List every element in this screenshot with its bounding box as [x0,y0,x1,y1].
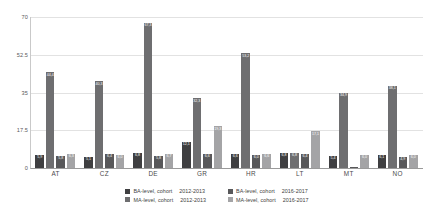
bar: 6,0 [252,155,261,168]
y-axis-tick-label: 35 [2,90,28,96]
x-axis: ATCZDEGRHRLTMTNO [31,170,422,177]
x-axis-tick-label: LT [275,170,324,177]
bar: 6,6 [231,154,240,168]
bar-group-hr: 6,653,26,06,6 [227,17,276,168]
bar: 6,6 [203,154,212,168]
legend-label: BA-level, cohort [133,188,172,194]
legend-entry[interactable]: MA-level, cohort2016-2017 [228,197,309,203]
x-axis-tick-label: DE [129,170,178,177]
bar-value-label: 6,8 [292,154,297,158]
y-axis-tick-label: 52.5 [2,52,28,58]
bar-group-de: 6,867,35,86,7 [129,17,178,168]
legend-swatch-icon [125,197,130,202]
bar-value-label: 34,9 [340,94,347,98]
bar-group-no: 6,138,14,96,0 [373,17,422,168]
bar-value-label: 6,3 [69,155,74,159]
bar-value-label: 6,0 [118,156,123,160]
bar: 6,0 [409,155,418,168]
legend-entry[interactable]: BA-level, cohort2012-2013 [125,188,206,194]
bar-value-label: 19,3 [214,128,221,132]
legend-column-1: BA-level, cohort2012-2013MA-level, cohor… [125,188,206,203]
bar: 53,2 [241,53,250,168]
bar-value-label: 6,7 [166,155,171,159]
legend-swatch-icon [125,189,130,194]
bar-value-label: 6,6 [233,155,238,159]
bar: 6,8 [280,153,289,168]
bar: 6,1 [378,155,387,168]
legend-cohort-year: 2016-2017 [283,197,309,203]
bar-value-label: 17,1 [312,133,319,137]
bar: 6,7 [165,154,174,168]
bar: 32,3 [193,98,202,168]
legend-swatch-icon [228,197,233,202]
bar-value-label: 38,1 [389,87,396,91]
bar-value-label: 6,0 [362,156,367,160]
bar-value-label: 5,9 [37,156,42,160]
legend-column-2: BA-level, cohort2016-2017MA-level, cohor… [228,188,309,203]
bar: 6,8 [290,153,299,168]
legend-label: MA-level, cohort [236,197,276,203]
bar-value-label: 6,0 [254,156,259,160]
legend-cohort-year: 2012-2013 [179,188,205,194]
bar-value-label: 32,3 [193,100,200,104]
bar-groups: 5,944,45,86,35,140,36,46,06,867,35,86,71… [31,17,422,168]
bar: 44,4 [46,72,55,168]
legend-cohort-year: 2012-2013 [180,197,206,203]
bar-value-label: 6,8 [135,154,140,158]
y-axis: 017.53552.570 [0,17,28,168]
bar: 6,0 [116,155,125,168]
y-axis-tick-label: 17.5 [2,127,28,133]
chart-legend: BA-level, cohort2012-2013MA-level, cohor… [0,188,434,203]
bar: 12,1 [182,142,191,168]
bar-group-lt: 6,86,86,417,1 [275,17,324,168]
bar-chart: 017.53552.570 5,944,45,86,35,140,36,46,0… [0,0,434,220]
bar-value-label: 5,8 [156,157,161,161]
bar-group-at: 5,944,45,86,3 [31,17,80,168]
legend-swatch-icon [228,189,233,194]
bar: 17,1 [311,131,320,168]
legend-entry[interactable]: BA-level, cohort2016-2017 [228,188,309,194]
x-axis-tick-label: AT [31,170,80,177]
x-axis-tick-label: NO [373,170,422,177]
bar-group-mt: 5,434,90,46,0 [324,17,373,168]
x-axis-tick-label: MT [324,170,373,177]
x-axis-tick-label: CZ [80,170,129,177]
bar: 38,1 [388,86,397,168]
bar: 0,4 [350,167,359,168]
bar-value-label: 6,0 [411,156,416,160]
bar-value-label: 5,8 [58,157,63,161]
bar-value-label: 4,9 [400,158,405,162]
legend-label: MA-level, cohort [133,197,173,203]
bar: 5,8 [154,156,163,169]
bar: 19,3 [214,126,223,168]
legend-entry[interactable]: MA-level, cohort2012-2013 [125,197,206,203]
bar-value-label: 6,6 [264,155,269,159]
bar-group-cz: 5,140,36,46,0 [80,17,129,168]
bar: 6,8 [133,153,142,168]
bar-value-label: 6,4 [107,155,112,159]
bar: 6,3 [67,154,76,168]
legend-label: BA-level, cohort [236,188,275,194]
bar: 6,4 [105,154,114,168]
y-axis-tick-label: 70 [2,14,28,20]
bar-value-label: 40,3 [96,83,103,87]
bar-value-label: 6,8 [282,154,287,158]
x-axis-tick-label: HR [227,170,276,177]
bar: 67,3 [144,23,153,168]
bar-group-gr: 12,132,36,619,3 [178,17,227,168]
bar-value-label: 5,1 [86,158,91,162]
x-axis-tick-label: GR [178,170,227,177]
legend-cohort-year: 2016-2017 [282,188,308,194]
bar: 40,3 [95,81,104,168]
bar-value-label: 67,3 [144,24,151,28]
bar: 5,1 [84,157,93,168]
y-axis-tick-label: 0 [2,165,28,171]
bar: 5,4 [329,156,338,168]
bar-value-label: 6,1 [379,156,384,160]
bar: 34,9 [339,93,348,168]
bar-value-label: 6,4 [303,155,308,159]
bar-value-label: 44,4 [47,74,54,78]
bar-value-label: 6,6 [205,155,210,159]
bar: 4,9 [399,157,408,168]
bar-value-label: 12,1 [183,143,190,147]
